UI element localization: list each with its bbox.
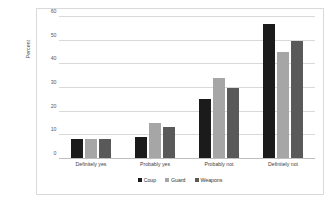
y-axis-tick-label: 10 xyxy=(51,126,57,132)
bar xyxy=(277,52,289,158)
legend-label: Guard xyxy=(171,177,185,183)
y-axis-tick-label: 50 xyxy=(51,32,57,38)
legend-item[interactable]: Guard xyxy=(165,177,185,183)
bar xyxy=(135,137,147,158)
bar xyxy=(85,139,97,158)
legend-item[interactable]: Weapons xyxy=(195,177,223,183)
y-axis-tick-label: 60 xyxy=(51,8,57,14)
bar xyxy=(99,139,111,158)
y-axis-title: Percent xyxy=(25,14,31,84)
bar-chart: Percent 0102030405060 Definitely yesProb… xyxy=(0,0,336,207)
legend-swatch-icon xyxy=(138,178,142,182)
bar-group xyxy=(251,17,315,158)
bar xyxy=(227,88,239,159)
bar xyxy=(213,78,225,158)
plot-area: 0102030405060 xyxy=(59,17,315,159)
bar-group xyxy=(187,17,251,158)
bar xyxy=(291,41,303,159)
chart-plot-frame: 0102030405060 Definitely yesProbably yes… xyxy=(36,8,324,195)
bar xyxy=(263,24,275,158)
bar xyxy=(163,127,175,158)
bar-groups xyxy=(59,17,315,158)
y-axis-tick-label: 0 xyxy=(54,150,57,156)
legend-label: Weapons xyxy=(201,177,223,183)
x-axis-tick-label: Definitely not xyxy=(251,161,315,167)
bar xyxy=(199,99,211,158)
y-axis-tick-label: 30 xyxy=(51,79,57,85)
legend-swatch-icon xyxy=(195,178,199,182)
x-axis-line xyxy=(59,158,315,159)
y-axis-tick-label: 40 xyxy=(51,55,57,61)
x-axis-labels: Definitely yesProbably yesProbably notDe… xyxy=(59,161,315,167)
legend-swatch-icon xyxy=(165,178,169,182)
legend-label: Coup xyxy=(144,177,156,183)
legend-item[interactable]: Coup xyxy=(138,177,156,183)
bar-group xyxy=(123,17,187,158)
bar xyxy=(71,139,83,158)
x-axis-tick-label: Probably not xyxy=(187,161,251,167)
bar xyxy=(149,123,161,158)
x-axis-tick-label: Probably yes xyxy=(123,161,187,167)
x-axis-tick-label: Definitely yes xyxy=(59,161,123,167)
y-axis-tick-label: 20 xyxy=(51,103,57,109)
bar-group xyxy=(59,17,123,158)
chart-legend: CoupGuardWeapons xyxy=(37,177,323,183)
